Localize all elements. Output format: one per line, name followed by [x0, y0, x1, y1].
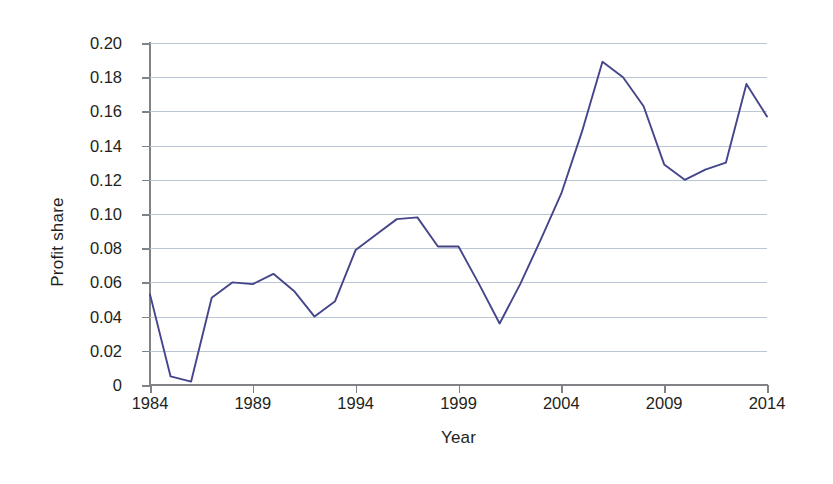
- data-series-line: [150, 43, 767, 385]
- x-axis-tick-mark: [356, 385, 358, 393]
- line-chart-figure: Profit share 0.200.180.160.140.120.100.0…: [0, 0, 833, 484]
- x-axis-tick-labels: 1984198919941999200420092014: [0, 394, 833, 420]
- x-axis-tick-mark: [459, 385, 461, 393]
- x-axis-tick-mark: [664, 385, 666, 393]
- y-axis-tick-label: 0.12: [90, 170, 122, 189]
- x-axis-tick-label: 1989: [234, 394, 271, 413]
- x-axis-tick-mark: [253, 385, 255, 393]
- x-axis-tick-label: 2009: [646, 394, 683, 413]
- x-axis-title: Year: [150, 428, 767, 448]
- y-axis-tick-label: 0.04: [90, 307, 122, 326]
- y-axis-tick-label: 0.14: [90, 136, 122, 155]
- plot-area: [150, 43, 767, 385]
- x-axis-tick-label: 1994: [337, 394, 374, 413]
- y-axis-tick-label: 0.08: [90, 239, 122, 258]
- y-axis-tick-label: 0.10: [90, 205, 122, 224]
- x-axis-tick-marks: [0, 385, 833, 393]
- y-axis-tick-label: 0.02: [90, 341, 122, 360]
- x-axis-tick-label: 1999: [440, 394, 477, 413]
- x-axis-tick-mark: [561, 385, 563, 393]
- x-axis-tick-label: 2014: [749, 394, 786, 413]
- x-axis-tick-mark: [767, 385, 769, 393]
- y-axis-tick-label: 0.18: [90, 68, 122, 87]
- y-axis-tick-label: 0.06: [90, 273, 122, 292]
- x-axis-tick-label: 1984: [132, 394, 169, 413]
- y-axis-tick-label: 0.16: [90, 102, 122, 121]
- x-axis-tick-label: 2004: [543, 394, 580, 413]
- y-axis-tick-label: 0.20: [90, 34, 122, 53]
- x-axis-tick-mark: [150, 385, 152, 393]
